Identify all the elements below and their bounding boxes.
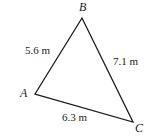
triangle-outline bbox=[35, 18, 133, 122]
vertex-label-c: C bbox=[135, 122, 143, 134]
vertex-label-a: A bbox=[20, 87, 27, 99]
side-length-label-ac: 6.3 m bbox=[62, 112, 87, 123]
side-length-label-ab: 5.6 m bbox=[25, 45, 50, 56]
vertex-label-b: B bbox=[79, 1, 86, 13]
triangle-figure: B A C 5.6 m 7.1 m 6.3 m bbox=[0, 0, 151, 139]
side-length-label-bc: 7.1 m bbox=[113, 56, 138, 67]
